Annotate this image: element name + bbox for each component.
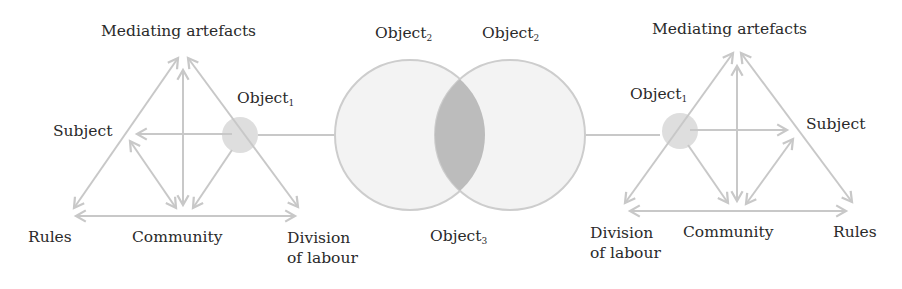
- left-division-line1: Division: [287, 228, 358, 248]
- activity-system-diagram: Mediating artefacts Subject Object1 Rule…: [0, 0, 902, 289]
- right-object1-label: Object1: [630, 85, 687, 105]
- right-subject-label: Subject: [806, 115, 865, 134]
- left-object1-subscript: 1: [289, 98, 295, 108]
- object3-label: Object3: [430, 227, 487, 247]
- left-object1-label: Object1: [237, 89, 294, 109]
- left-community-label: Community: [132, 228, 223, 247]
- object2-right-text: Object: [482, 24, 534, 42]
- left-division-line2: of labour: [287, 248, 358, 268]
- object2-right-label: Object2: [482, 24, 539, 44]
- right-object1-subscript: 1: [682, 94, 688, 104]
- left-mediating-artefacts-label: Mediating artefacts: [101, 22, 256, 41]
- right-object1-text: Object: [630, 85, 682, 103]
- object3-subscript: 3: [482, 236, 488, 246]
- left-object1-text: Object: [237, 89, 289, 107]
- right-community-label: Community: [683, 223, 774, 242]
- shared-object-venn: [335, 60, 585, 210]
- left-rules-label: Rules: [28, 228, 72, 247]
- right-division-of-labour-label: Division of labour: [590, 223, 661, 263]
- object2-left-subscript: 2: [427, 33, 433, 43]
- right-division-line1: Division: [590, 223, 661, 243]
- left-subject-label: Subject: [53, 122, 112, 141]
- left-division-of-labour-label: Division of labour: [287, 228, 358, 268]
- right-division-line2: of labour: [590, 243, 661, 263]
- object2-right-subscript: 2: [534, 33, 540, 43]
- object3-text: Object: [430, 227, 482, 245]
- right-rules-label: Rules: [833, 223, 877, 242]
- object2-left-label: Object2: [375, 24, 432, 44]
- right-mediating-artefacts-label: Mediating artefacts: [652, 20, 807, 39]
- object2-left-text: Object: [375, 24, 427, 42]
